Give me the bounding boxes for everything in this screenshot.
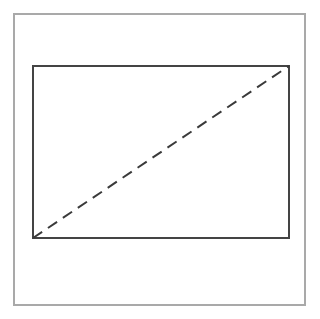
figure-svg: [0, 0, 320, 319]
figure-canvas: [0, 0, 320, 319]
outer-frame: [14, 14, 305, 305]
diagonal-line: [33, 66, 289, 238]
